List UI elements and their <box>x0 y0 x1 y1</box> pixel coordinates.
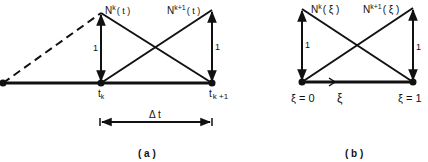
node-tk1-dot <box>209 80 216 87</box>
label-tk: tk <box>98 88 105 100</box>
panel-a: Nk( t ) Nk+1( t ) 1 1 tk tk +1 Δ t ( a ) <box>0 4 229 159</box>
label-nk1-xi: Nk+1( ξ ) <box>363 3 399 16</box>
previous-element-dashed-line <box>3 13 101 83</box>
caption-a: ( a ) <box>138 148 156 159</box>
label-tk1: tk +1 <box>209 88 229 101</box>
shape-function-diagram: Nk( t ) Nk+1( t ) 1 1 tk tk +1 Δ t ( a ) <box>0 0 428 162</box>
label-height-right: 1 <box>215 42 220 52</box>
label-height-left-b: 1 <box>305 40 310 50</box>
label-nk-xi: Nk( ξ ) <box>311 3 339 16</box>
label-xi-1: ξ = 1 <box>398 92 422 104</box>
label-height-right-b: 1 <box>416 42 421 52</box>
label-xi-0: ξ = 0 <box>291 92 315 104</box>
node-xi0-dot <box>299 79 306 86</box>
caption-b: ( b ) <box>345 148 363 159</box>
panel-b: Nk( ξ ) Nk+1( ξ ) 1 1 ξ = 0 ξ ξ = 1 ( b … <box>291 3 422 159</box>
label-height-left: 1 <box>93 43 98 53</box>
node-xi1-dot <box>410 79 417 86</box>
node-tk-dot <box>98 80 105 87</box>
label-delta-t: Δ t <box>149 109 161 120</box>
label-nk1-t: Nk+1( t ) <box>167 4 200 16</box>
label-nk-t: Nk( t ) <box>105 4 130 16</box>
label-xi-axis: ξ <box>337 91 343 105</box>
